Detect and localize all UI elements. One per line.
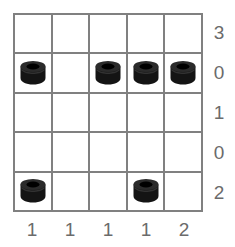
black-cylinder-nut-icon[interactable] xyxy=(168,58,198,88)
grid-cell-r4-c3[interactable] xyxy=(90,133,128,172)
grid-cell-r5-c4[interactable] xyxy=(128,173,166,212)
column-label-5: 2 xyxy=(165,213,203,245)
row-label-2: 0 xyxy=(205,53,233,93)
grid-cell-r2-c5[interactable] xyxy=(165,54,203,93)
grid-cell-r2-c2[interactable] xyxy=(53,54,91,93)
grid-container xyxy=(13,13,203,212)
black-cylinder-nut-icon[interactable] xyxy=(18,58,48,88)
puzzle-board: 30102 11112 xyxy=(0,0,235,247)
grid-cell-r2-c1[interactable] xyxy=(15,54,53,93)
grid-cell-r1-c2[interactable] xyxy=(53,15,91,54)
grid-cell-r5-c3[interactable] xyxy=(90,173,128,212)
column-label-3: 1 xyxy=(89,213,127,245)
grid-cell-r1-c1[interactable] xyxy=(15,15,53,54)
grid-cell-r4-c5[interactable] xyxy=(165,133,203,172)
column-label-2: 1 xyxy=(51,213,89,245)
row-label-column: 30102 xyxy=(205,13,233,212)
black-cylinder-nut-icon[interactable] xyxy=(93,58,123,88)
column-label-4: 1 xyxy=(127,213,165,245)
row-label-3: 1 xyxy=(205,93,233,133)
column-label-row: 11112 xyxy=(13,213,203,245)
black-cylinder-nut-icon[interactable] xyxy=(131,58,161,88)
black-cylinder-nut-icon[interactable] xyxy=(18,176,48,206)
grid-cell-r1-c3[interactable] xyxy=(90,15,128,54)
grid-cell-r3-c1[interactable] xyxy=(15,94,53,133)
grid-cell-r3-c4[interactable] xyxy=(128,94,166,133)
row-label-1: 3 xyxy=(205,13,233,53)
grid-cell-r5-c1[interactable] xyxy=(15,173,53,212)
black-cylinder-nut-icon[interactable] xyxy=(131,176,161,206)
grid-cell-r3-c2[interactable] xyxy=(53,94,91,133)
grid-cell-r1-c5[interactable] xyxy=(165,15,203,54)
row-label-5: 2 xyxy=(205,172,233,212)
grid-cell-r5-c5[interactable] xyxy=(165,173,203,212)
grid-cell-r2-c3[interactable] xyxy=(90,54,128,93)
row-label-4: 0 xyxy=(205,132,233,172)
grid-cell-r5-c2[interactable] xyxy=(53,173,91,212)
grid-cell-r4-c4[interactable] xyxy=(128,133,166,172)
grid-cell-r4-c1[interactable] xyxy=(15,133,53,172)
grid-cell-r4-c2[interactable] xyxy=(53,133,91,172)
grid-cell-r1-c4[interactable] xyxy=(128,15,166,54)
grid xyxy=(13,13,203,212)
grid-cell-r3-c5[interactable] xyxy=(165,94,203,133)
column-label-1: 1 xyxy=(13,213,51,245)
grid-cell-r3-c3[interactable] xyxy=(90,94,128,133)
grid-cell-r2-c4[interactable] xyxy=(128,54,166,93)
